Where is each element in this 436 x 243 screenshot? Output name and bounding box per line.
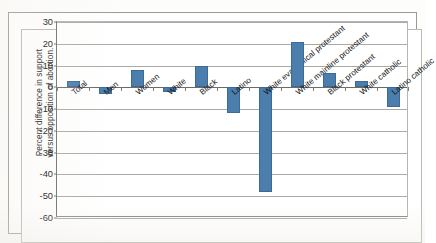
x-tick-mark (249, 87, 250, 91)
bar (259, 87, 272, 192)
x-tick-mark (281, 87, 282, 91)
y-tick-label: -10 (40, 104, 53, 114)
y-tick-label: 20 (43, 39, 53, 49)
gridline (57, 174, 407, 175)
y-tick-label: 0 (48, 82, 53, 92)
y-tick-label: -40 (40, 169, 53, 179)
bar (291, 42, 304, 88)
gridline (57, 131, 407, 132)
y-tick-mark (54, 130, 57, 131)
x-tick-mark (185, 87, 186, 91)
y-tick-label: -60 (40, 213, 53, 223)
x-tick-mark (408, 87, 409, 91)
gridline (57, 218, 407, 219)
x-tick-mark (121, 87, 122, 91)
x-tick-mark (89, 87, 90, 91)
y-tick-mark (54, 65, 57, 66)
x-tick-mark (57, 87, 58, 91)
x-tick-mark (217, 87, 218, 91)
x-tick-mark (377, 87, 378, 91)
y-tick-mark (54, 152, 57, 153)
y-tick-mark (54, 22, 57, 23)
y-tick-label: -50 (40, 191, 53, 201)
gridline (57, 196, 407, 197)
category-label: Men (102, 80, 120, 97)
x-tick-mark (153, 87, 154, 91)
y-tick-mark (54, 196, 57, 197)
x-tick-mark (345, 87, 346, 91)
gridline (57, 153, 407, 154)
y-tick-label: 10 (43, 61, 53, 71)
y-tick-mark (54, 109, 57, 110)
x-tick-mark (313, 87, 314, 91)
y-tick-mark (54, 43, 57, 44)
y-tick-mark (54, 218, 57, 219)
y-tick-label: 30 (43, 17, 53, 27)
gridline (57, 22, 407, 23)
plot-area: 3020100-10-20-30-40-50-60TotalMenWomenWh… (56, 21, 408, 217)
y-tick-mark (54, 174, 57, 175)
y-tick-label: -20 (40, 126, 53, 136)
y-tick-label: -30 (40, 148, 53, 158)
